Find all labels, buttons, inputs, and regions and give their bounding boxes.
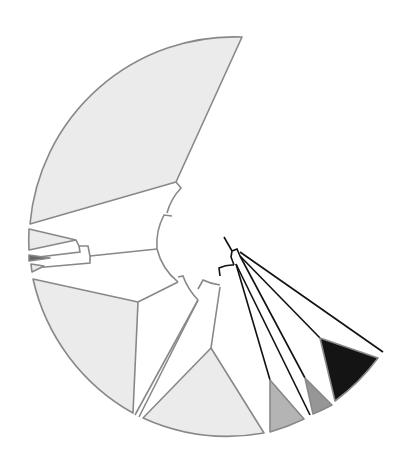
clade-bottom-large (143, 348, 264, 436)
clade-right-black (320, 338, 378, 401)
clade-bottom-right-gray (270, 380, 304, 432)
branch-long-black (240, 252, 383, 352)
clade-top-large (30, 37, 242, 224)
branch-to-left-group (90, 249, 157, 256)
branch-arc-left (157, 249, 178, 282)
branch-arc-bottom (198, 280, 220, 289)
branch-black-node-1 (232, 249, 240, 256)
phylogenetic-tree (0, 0, 409, 468)
clade-lower-left-large (33, 279, 138, 413)
branch-black-node-2 (231, 251, 234, 265)
branch-root-stub (224, 237, 232, 251)
branch-left-upper (76, 240, 90, 256)
clade-right-gray (305, 378, 332, 414)
branch-to-bottom (211, 287, 220, 348)
clade-left-small-1 (29, 229, 76, 250)
branch-arc-lower (178, 276, 198, 300)
branch-arc-upper-left (157, 215, 172, 249)
black-branches (219, 237, 383, 415)
branch-to-lower-left (138, 282, 178, 302)
branch-arc-top (167, 182, 181, 213)
branch-black-arc (219, 265, 234, 276)
